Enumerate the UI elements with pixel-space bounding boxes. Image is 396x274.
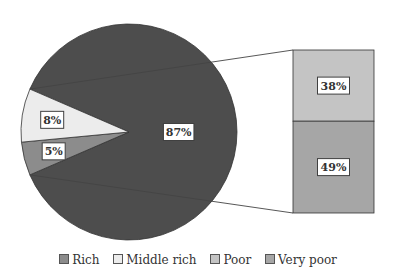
data-label: 49% bbox=[321, 161, 347, 174]
legend-item-rich: Rich bbox=[59, 253, 99, 267]
legend-label: Poor bbox=[223, 253, 251, 267]
bar-of-pie-chart: 87%5%8%38%49% bbox=[0, 0, 396, 250]
legend-swatch bbox=[210, 254, 220, 264]
data-label: 38% bbox=[321, 80, 347, 93]
legend-swatch bbox=[113, 254, 123, 264]
legend-label: Middle rich bbox=[126, 253, 196, 267]
legend: Rich Middle rich Poor Very poor bbox=[0, 253, 396, 267]
data-label: 5% bbox=[45, 145, 64, 158]
data-label: 87% bbox=[166, 126, 192, 139]
legend-swatch bbox=[265, 254, 275, 264]
legend-item-middle-rich: Middle rich bbox=[113, 253, 196, 267]
data-label: 8% bbox=[43, 114, 62, 127]
legend-label: Rich bbox=[72, 253, 99, 267]
legend-swatch bbox=[59, 254, 69, 264]
stacked-bar bbox=[293, 50, 374, 213]
legend-item-very-poor: Very poor bbox=[265, 253, 337, 267]
pie bbox=[21, 24, 237, 240]
legend-label: Very poor bbox=[278, 253, 337, 267]
legend-item-poor: Poor bbox=[210, 253, 251, 267]
